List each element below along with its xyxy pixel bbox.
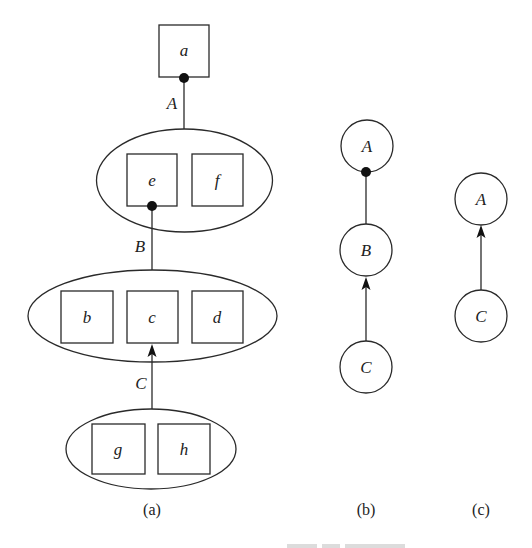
panel-c: A C (c) [455, 173, 507, 519]
edge-label-a: A [166, 94, 178, 113]
box-h-label: h [180, 440, 189, 459]
node-c-label: C [475, 307, 487, 326]
node-a-label: A [361, 137, 373, 156]
diagram-canvas: A a e f B b c d C g h (a) [0, 0, 532, 548]
node-b-label: B [361, 241, 372, 260]
edge-label-b: B [135, 237, 146, 256]
box-c-label: c [148, 308, 156, 327]
panel-b: A B C (b) [340, 120, 393, 519]
dot-endpoint-icon [361, 167, 371, 177]
panel-a: A a e f B b c d C g h (a) [28, 25, 277, 519]
box-a-label: a [180, 41, 189, 60]
panel-c-sublabel: (c) [472, 501, 490, 519]
group-ellipse-ef [97, 129, 273, 232]
panel-a-sublabel: (a) [143, 501, 161, 519]
node-a-label: A [475, 190, 487, 209]
box-g-label: g [114, 440, 123, 459]
box-d-label: d [213, 308, 222, 327]
panel-b-sublabel: (b) [357, 501, 376, 519]
dot-endpoint-icon [179, 73, 189, 83]
caption-remnant [287, 544, 405, 548]
box-e-label: e [148, 171, 156, 190]
box-b-label: b [83, 308, 92, 327]
node-c-label: C [360, 358, 372, 377]
dot-endpoint-icon [147, 201, 157, 211]
edge-label-c: C [135, 374, 147, 393]
